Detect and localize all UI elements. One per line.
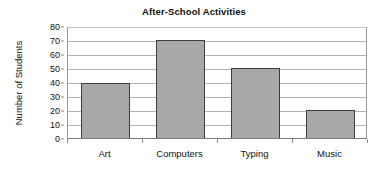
y-axis-tick-labels: 80706050403020100: [28, 27, 64, 139]
x-axis-tick-mark: [367, 139, 368, 143]
y-axis-tick-label: 60: [50, 51, 60, 60]
y-axis-tick-label: 10: [50, 121, 60, 130]
x-axis-tick-mark: [67, 139, 68, 143]
y-axis-tick-mark: [61, 69, 64, 70]
bar-series: [68, 27, 366, 139]
bar: [81, 83, 131, 139]
y-axis-tick-mark: [61, 111, 64, 112]
y-axis-tick-label: 80: [50, 23, 60, 32]
x-axis-tick-mark: [142, 139, 143, 143]
bar: [156, 40, 206, 139]
y-axis-tick-mark: [61, 125, 64, 126]
x-axis-category-label: Art: [98, 148, 110, 159]
y-axis-title-container: Number of Students: [10, 27, 26, 139]
y-axis-tick-mark: [61, 55, 64, 56]
y-axis-title: Number of Students: [13, 41, 24, 126]
bar: [306, 110, 356, 139]
chart-title: After-School Activities: [0, 6, 388, 17]
y-axis-tick-mark: [61, 41, 64, 42]
y-axis-tick-label: 50: [50, 65, 60, 74]
y-axis-tick-mark: [61, 83, 64, 84]
y-axis-tick-label: 0: [55, 135, 60, 144]
y-axis-tick-label: 40: [50, 79, 60, 88]
x-axis-tick-mark: [292, 139, 293, 143]
y-axis-tick-label: 30: [50, 93, 60, 102]
x-axis-tick-mark: [217, 139, 218, 143]
x-axis-category-label: Computers: [156, 148, 202, 159]
plot-area: [67, 27, 367, 139]
x-axis-category-label: Music: [317, 148, 342, 159]
bar: [231, 68, 281, 139]
x-axis-category-label: Typing: [241, 148, 269, 159]
bar-chart: After-School Activities Number of Studen…: [0, 0, 388, 172]
y-axis-tick-mark: [61, 97, 64, 98]
y-axis-tick-label: 70: [50, 37, 60, 46]
y-axis-tick-label: 20: [50, 107, 60, 116]
y-axis-tick-mark: [61, 27, 64, 28]
y-axis-tick-mark: [61, 139, 64, 140]
